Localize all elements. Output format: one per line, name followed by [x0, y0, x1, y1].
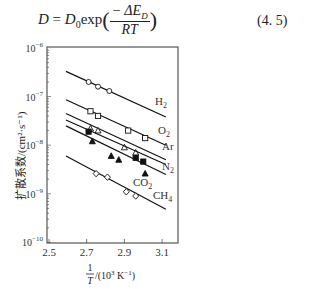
marker-filled-triangle: [89, 138, 95, 144]
x-tick-label: 2.7: [80, 246, 94, 258]
svg-text:/(103 K−1): /(103 K−1): [95, 269, 135, 282]
marker-open-square: [126, 128, 131, 133]
y-tick-label: 10−6: [26, 41, 44, 54]
marker-open-circle: [86, 79, 91, 84]
y-axis-label: 扩散系数/(cm²·s⁻¹): [14, 111, 28, 200]
series-H₂: H2: [66, 71, 167, 117]
x-tick-label: 2.5: [42, 246, 56, 258]
marker-open-triangle: [95, 127, 101, 133]
marker-open-square: [88, 109, 93, 114]
y-tick-label: 10−9: [26, 187, 44, 200]
y-tick-label: 10−10: [22, 235, 43, 248]
series-CH₄: CH4: [66, 156, 172, 209]
x-tick-label: 3.1: [155, 246, 169, 258]
y-tick-label: 10−7: [26, 90, 44, 103]
series-label: H2: [155, 95, 167, 110]
series-label: O2: [158, 124, 170, 139]
marker-filled-square: [86, 129, 91, 134]
series-Ar: Ar: [66, 113, 174, 159]
chart: 10−610−710−810−910−102.52.72.93.1H2O2ArN…: [0, 0, 311, 289]
series-label: Ar: [162, 140, 174, 152]
x-axis-label: 1T/(103 K−1): [86, 262, 135, 286]
axes-frame: [47, 47, 178, 243]
marker-filled-triangle: [116, 157, 122, 163]
marker-open-circle: [96, 84, 101, 89]
svg-text:1: 1: [88, 262, 93, 273]
y-tick-label: 10−8: [26, 138, 44, 151]
x-tick-label: 2.9: [118, 246, 132, 258]
series-label: CO2: [133, 176, 152, 191]
svg-text:T: T: [87, 275, 94, 286]
series-label: CH4: [153, 189, 172, 204]
marker-open-circle: [107, 89, 112, 94]
marker-open-square: [95, 113, 100, 118]
marker-filled-triangle: [108, 153, 114, 159]
plot-area: 10−610−710−810−910−102.52.72.93.1H2O2ArN…: [22, 41, 178, 258]
marker-open-square: [143, 135, 148, 140]
series-label: N2: [162, 160, 174, 175]
